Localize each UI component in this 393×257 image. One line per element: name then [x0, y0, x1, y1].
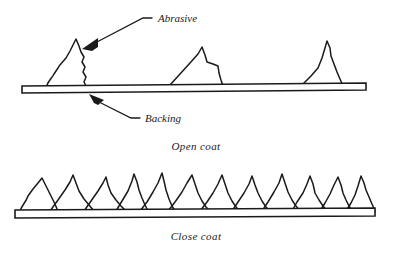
- abrasive-grain-open-3: [302, 41, 343, 86]
- backing-label: Backing: [145, 112, 182, 124]
- abrasive-grain-close-5: [140, 173, 175, 211]
- abrasive-grain-open-2: [170, 47, 223, 86]
- abrasive-grain-close-7: [200, 175, 240, 211]
- abrasive-grain-close-12: [346, 176, 375, 211]
- backing-leader-line: [101, 103, 140, 118]
- figure-canvas: Abrasive Backing Open coat: [0, 0, 393, 257]
- close-coat-caption: Close coat: [171, 230, 222, 242]
- open-coat-panel: Abrasive Backing Open coat: [22, 12, 366, 152]
- abrasive-grain-close-10: [292, 176, 327, 211]
- abrasive-grain-open-1: [47, 39, 86, 86]
- open-coat-caption: Open coat: [171, 140, 221, 152]
- backing-callout: Backing: [89, 94, 182, 124]
- abrasive-leader-line: [95, 18, 152, 43]
- abrasive-grain-close-8: [232, 176, 270, 211]
- close-coat-panel: Close coat: [15, 173, 375, 242]
- abrasive-label: Abrasive: [157, 12, 197, 24]
- backing-strip-close-coat: [15, 208, 375, 218]
- abrasive-coating-figure: Abrasive Backing Open coat: [0, 0, 393, 257]
- abrasive-grain-close-1: [20, 178, 58, 211]
- abrasive-grain-close-11: [320, 177, 352, 211]
- backing-strip-open-coat: [22, 83, 366, 93]
- abrasive-callout: Abrasive: [82, 12, 197, 51]
- abrasive-arrow-head-icon: [82, 38, 98, 51]
